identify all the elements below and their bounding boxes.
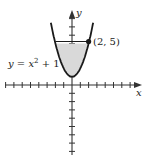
- y-axis-label: y: [75, 7, 82, 18]
- y-axis: [69, 10, 75, 155]
- x-axis-label: x: [136, 87, 142, 98]
- x-axis: [5, 82, 142, 88]
- point-label: (2, 5): [93, 36, 120, 47]
- marked-point: [86, 39, 91, 44]
- y-axis-arrow-icon: [69, 10, 75, 18]
- parabola-diagram: (2, 5) y = x2 + 1 x y: [0, 0, 153, 160]
- curve-label: y = x2 + 1: [7, 57, 60, 69]
